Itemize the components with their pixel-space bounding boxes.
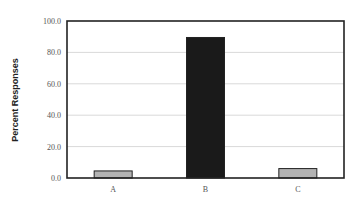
y-tick-label: 20.0: [47, 143, 61, 152]
x-category-label: B: [203, 185, 208, 194]
bar-C: [279, 169, 317, 178]
y-tick-label: 60.0: [47, 80, 61, 89]
y-tick-label: 0.0: [51, 174, 61, 183]
y-tick-label: 40.0: [47, 111, 61, 120]
x-category-label: A: [110, 185, 116, 194]
x-axis-categories: ABC: [110, 185, 300, 194]
y-tick-label: 100.0: [43, 17, 61, 26]
bar-B: [187, 37, 225, 178]
bar-A: [94, 171, 132, 178]
bars: [94, 37, 317, 178]
bar-chart: 0.020.040.060.080.0100.0 ABC Percent Res…: [0, 0, 364, 209]
y-axis-ticks: 0.020.040.060.080.0100.0: [43, 17, 61, 183]
x-category-label: C: [295, 185, 300, 194]
y-tick-label: 80.0: [47, 48, 61, 57]
y-axis-label: Percent Responses: [10, 58, 20, 142]
